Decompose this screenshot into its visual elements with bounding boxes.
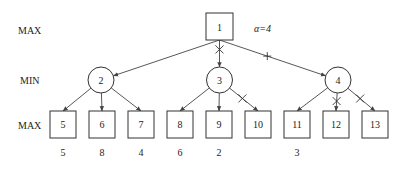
node-5: 5 5: [50, 111, 76, 158]
node-1-label: 1: [217, 22, 222, 33]
node-11-value: 3: [295, 147, 300, 158]
node-9-value: 2: [217, 147, 222, 158]
node-4-label: 4: [336, 75, 341, 86]
node-12: 12: [323, 111, 349, 138]
cut-mark-3-10-x-icon: [238, 94, 246, 102]
node-8: 8 6: [167, 111, 193, 158]
node-8-label: 8: [178, 119, 183, 130]
node-6-label: 6: [100, 119, 105, 130]
cut-mark-4-13-x-icon: [356, 95, 364, 103]
node-9-label: 9: [217, 119, 222, 130]
level-label-max-bottom: MAX: [18, 120, 42, 131]
node-4: 4: [325, 67, 351, 93]
node-5-label: 5: [61, 119, 66, 130]
edge-1-4: [220, 40, 326, 76]
node-6: 6 8: [89, 111, 115, 158]
node-6-value: 8: [100, 147, 105, 158]
edge-2-6: [101, 93, 102, 111]
alpha-annotation: α=4: [254, 23, 271, 34]
edge-2-7: [111, 88, 141, 111]
node-7: 7 4: [128, 111, 154, 158]
edge-2-5: [63, 88, 91, 111]
alpha-beta-tree-diagram: MAX MIN MAX 1 α=4 2 3 4 5 5 6 8 7 4 8 6: [0, 0, 405, 174]
node-3-label: 3: [217, 75, 222, 86]
node-2: 2: [88, 67, 114, 93]
node-10-label: 10: [253, 119, 263, 130]
node-9: 9 2: [206, 111, 232, 158]
cut-mark-1-4-plus-icon: [263, 52, 271, 60]
node-3: 3: [207, 67, 233, 93]
node-12-label: 12: [331, 119, 341, 130]
level-label-max-top: MAX: [18, 25, 42, 36]
node-5-value: 5: [61, 147, 66, 158]
node-13-label: 13: [370, 119, 380, 130]
node-7-label: 7: [139, 119, 144, 130]
node-13: 13: [362, 111, 388, 138]
node-10: 10: [245, 111, 271, 138]
node-1: 1: [206, 13, 233, 40]
edge-4-11: [297, 88, 328, 111]
node-8-value: 6: [178, 147, 183, 158]
node-7-value: 4: [139, 147, 144, 158]
edge-3-8: [180, 88, 209, 111]
level-label-min: MIN: [20, 75, 39, 86]
node-2-label: 2: [99, 75, 104, 86]
edge-1-2: [113, 40, 219, 76]
node-11: 11 3: [284, 111, 310, 158]
node-11-label: 11: [292, 119, 302, 130]
